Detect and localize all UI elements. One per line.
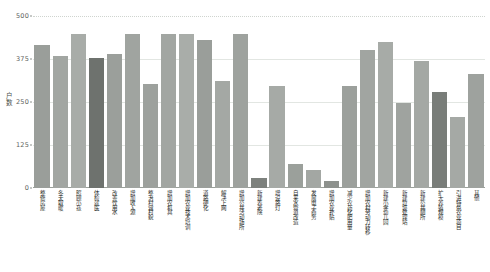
bar[interactable]	[468, 74, 483, 188]
x-axis-tick-label: 增加公共活动场所	[238, 190, 244, 230]
bar[interactable]	[396, 103, 411, 188]
bar[interactable]	[324, 181, 339, 188]
x-label-slot: 新建垃圾处理站	[395, 190, 413, 268]
x-axis-tick-label: 引进特色农业项目	[455, 190, 461, 230]
x-label-slot: 减少农药化肥用量	[340, 190, 358, 268]
x-axis-tick-label: 新建养老院	[256, 190, 262, 215]
bar[interactable]	[125, 34, 140, 188]
bar-slot	[467, 16, 485, 188]
bar[interactable]	[342, 86, 357, 188]
bar[interactable]	[432, 92, 447, 188]
bar[interactable]	[378, 42, 393, 188]
x-label-slot: 解决上网	[214, 190, 232, 268]
x-axis-tick-label: 增加收入源	[130, 190, 136, 215]
bar[interactable]	[179, 34, 194, 188]
x-label-slot: 整修房屋	[33, 190, 51, 268]
x-label-slot: 新建小学幼儿园	[376, 190, 394, 268]
y-tick-mark-0	[30, 188, 32, 189]
x-label-slot: 体检就医	[87, 190, 105, 268]
bar[interactable]	[71, 34, 86, 188]
bar[interactable]	[251, 178, 266, 188]
x-label-slot: 照顾小孩	[69, 190, 87, 268]
bar-slot	[304, 16, 322, 188]
x-axis-tick-label: 增加农村劳动力转移	[365, 190, 371, 235]
x-axis-tick-label: 改善饮用水	[112, 190, 118, 215]
bar[interactable]	[306, 170, 321, 188]
bar-slot	[286, 16, 304, 188]
bar-slot	[87, 16, 105, 188]
bar[interactable]	[450, 117, 465, 188]
x-axis-tick-label: 照顾小孩	[75, 190, 81, 210]
bar-slot	[214, 16, 232, 188]
bar[interactable]	[53, 56, 68, 188]
bar-slot	[358, 16, 376, 188]
bar[interactable]	[197, 40, 212, 188]
x-label-slot: 新建养老院	[250, 190, 268, 268]
bar[interactable]	[360, 50, 375, 188]
x-axis-tick-label: 整治村容村貌	[148, 190, 154, 220]
bar[interactable]	[288, 164, 303, 188]
bar-slot	[376, 16, 394, 188]
bar[interactable]	[233, 34, 248, 188]
x-label-slot: 扩大养殖规模	[431, 190, 449, 268]
x-axis-tick-label: 冬天取暖	[57, 190, 63, 210]
x-label-slot: 发展电子商务	[304, 190, 322, 268]
x-axis-tick-label: 增加农业技术培训	[184, 190, 190, 230]
bar-slot	[178, 16, 196, 188]
x-axis-tick-label: 发展电子商务	[310, 190, 316, 220]
bar[interactable]	[107, 54, 122, 188]
x-label-slot: 整治村容村貌	[141, 190, 159, 268]
x-label-slot: 改善饮用水	[105, 190, 123, 268]
y-tick-label-0: 0	[25, 184, 29, 192]
y-tick-label-375: 375	[16, 55, 29, 63]
x-axis-tick-label: 减少农药化肥用量	[347, 190, 353, 230]
bar[interactable]	[414, 61, 429, 188]
x-label-slot: 增加公共活动场所	[232, 190, 250, 268]
bar-slot	[105, 16, 123, 188]
x-axis-tick-label: 新建垃圾处理站	[401, 190, 407, 225]
y-tick-mark-375	[30, 59, 32, 60]
x-axis-tick-label: 其他	[473, 190, 479, 200]
bar[interactable]	[89, 58, 104, 188]
x-axis-tick-label: 增设路灯	[274, 190, 280, 210]
y-tick-label-125: 125	[16, 141, 29, 149]
y-tick-mark-250	[30, 102, 32, 103]
x-axis-tick-label: 体检就医	[93, 190, 99, 210]
bar[interactable]	[215, 81, 230, 188]
x-axis-tick-label: 增加农业补贴	[328, 190, 334, 220]
bar-slot	[196, 16, 214, 188]
y-tick-label-250: 250	[16, 98, 29, 106]
y-tick-mark-500	[30, 16, 32, 17]
bar[interactable]	[269, 86, 284, 189]
x-axis-tick-label: 自来水管道改造	[292, 190, 298, 225]
bar-slot	[33, 16, 51, 188]
y-tick-label-500: 500	[16, 12, 29, 20]
x-axis-tick-label: 新建小学幼儿园	[383, 190, 389, 225]
x-label-slot: 引进特色农业项目	[449, 190, 467, 268]
x-label-slot: 增加农村劳动力转移	[358, 190, 376, 268]
plot-area: 500 375 250 125 0	[33, 16, 485, 188]
bar[interactable]	[34, 45, 49, 188]
x-label-slot: 其他	[467, 190, 485, 268]
bar-slot	[413, 16, 431, 188]
bar-slot	[232, 16, 250, 188]
bar-slot	[141, 16, 159, 188]
bar-chart: 户数 500 375 250 125 0 整修房屋冬天取暖照顾小孩体检就医改善饮…	[0, 0, 490, 272]
bar-slot	[322, 16, 340, 188]
x-axis-tick-label: 扩大养殖规模	[437, 190, 443, 220]
x-label-slot: 新建公共厕所	[413, 190, 431, 268]
bar-slot	[160, 16, 178, 188]
bar[interactable]	[161, 34, 176, 188]
bar-slot	[69, 16, 87, 188]
y-tick-mark-125	[30, 145, 32, 146]
bar-slot	[268, 16, 286, 188]
x-axis-tick-label: 解决上网	[220, 190, 226, 210]
x-axis-tick-label: 新建公共厕所	[419, 190, 425, 220]
bar-slot	[51, 16, 69, 188]
bar[interactable]	[143, 84, 158, 188]
bar-slot	[123, 16, 141, 188]
x-label-slot: 增设路灯	[268, 190, 286, 268]
x-label-slot: 自来水管道改造	[286, 190, 304, 268]
bar-slot	[340, 16, 358, 188]
bar-slot	[431, 16, 449, 188]
